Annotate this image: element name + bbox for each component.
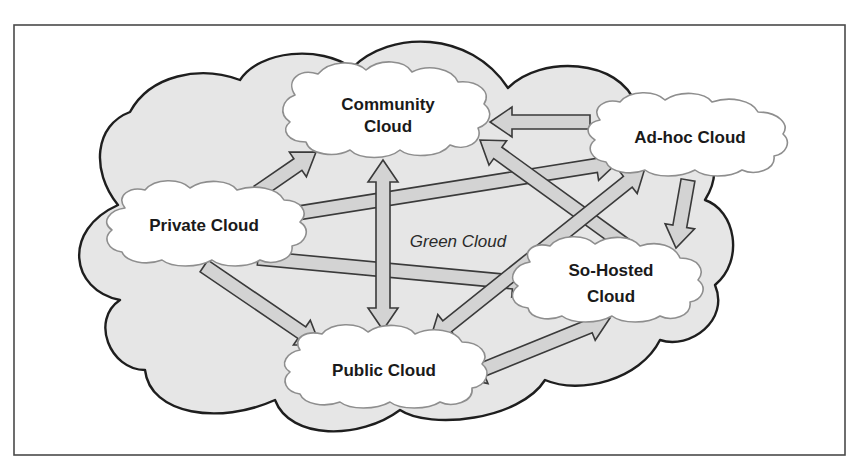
sohosted-cloud-label-line1: So-Hosted [569,261,654,280]
community-cloud-label-line2: Cloud [364,117,412,136]
green-cloud-diagram: Community Cloud Ad-hoc Cloud Private Clo… [0,0,855,466]
private-cloud-label: Private Cloud [149,216,259,235]
community-cloud-label-line1: Community [341,95,435,114]
public-cloud-label: Public Cloud [332,361,436,380]
adhoc-cloud-label: Ad-hoc Cloud [634,128,745,147]
node-sohosted-cloud: So-Hosted Cloud [513,237,704,322]
node-private-cloud: Private Cloud [107,181,307,266]
green-cloud-label: Green Cloud [410,232,507,251]
sohosted-cloud-label-line2: Cloud [587,287,635,306]
node-public-cloud: Public Cloud [285,325,487,408]
